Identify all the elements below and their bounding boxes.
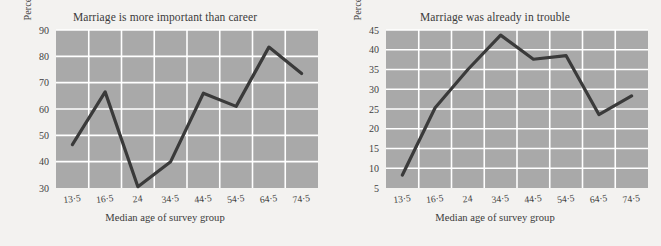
figure-container: Marriage is more important than career P… [0,0,661,246]
line-chart-plot: 3040506070809013·516·52434·544·554·564·5… [0,0,330,246]
x-axis-tick-label: 74·5 [292,192,311,205]
y-axis-tick-label: 25 [369,104,379,115]
chart-panel-left: Marriage is more important than career P… [0,0,330,246]
x-axis-tick-label: 34·5 [161,192,180,205]
y-axis-tick-label: 15 [369,143,379,154]
y-axis-tick-label: 5 [374,183,379,194]
y-axis-tick-label: 70 [39,77,49,88]
x-axis-tick-label: 16·5 [425,192,444,205]
y-axis-tick-label: 20 [369,123,379,134]
x-axis-tick-label: 13·5 [393,192,412,205]
y-axis-tick-label: 45 [369,25,379,36]
y-axis-tick-label: 50 [39,130,49,141]
y-axis-tick-label: 40 [369,44,379,55]
chart-panel-right: Marriage was already in trouble Percenta… [330,0,660,246]
y-axis-tick-label: 40 [39,156,49,167]
y-axis-tick-label: 30 [39,183,49,194]
x-axis-tick-label: 54·5 [226,192,245,205]
x-axis-tick-label: 54·5 [556,192,575,205]
x-axis-label: Median age of survey group [330,212,660,223]
x-axis-tick-label: 16·5 [95,192,114,205]
x-axis-tick-label: 24 [462,192,473,204]
x-axis-tick-label: 24 [132,192,143,204]
x-axis-tick-label: 74·5 [622,192,641,205]
y-axis-tick-label: 10 [369,163,379,174]
y-axis-tick-label: 30 [369,84,379,95]
x-axis-tick-label: 44·5 [524,192,543,205]
x-axis-tick-label: 44·5 [194,192,213,205]
y-axis-tick-label: 60 [39,104,49,115]
y-axis-tick-label: 80 [39,51,49,62]
x-axis-tick-label: 13·5 [63,192,82,205]
x-axis-tick-label: 34·5 [491,192,510,205]
x-axis-tick-label: 64·5 [259,192,278,205]
y-axis-tick-label: 35 [369,64,379,75]
x-axis-tick-label: 64·5 [589,192,608,205]
y-axis-tick-label: 90 [39,25,49,36]
x-axis-label: Median age of survey group [0,212,330,223]
line-chart-plot: 5101520253035404513·516·52434·544·554·56… [330,0,660,246]
